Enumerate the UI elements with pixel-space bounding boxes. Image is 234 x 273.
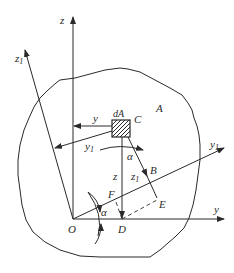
label-point-e: E <box>158 198 166 210</box>
label-da: dA <box>113 108 125 119</box>
d-to-e-dashed <box>122 200 157 219</box>
angle-arc-origin-bottom <box>95 224 101 244</box>
label-z-axis: z <box>59 14 65 26</box>
d-to-f-dashed <box>116 202 122 219</box>
label-y-arrow: y <box>92 112 98 124</box>
z1-axis <box>25 50 73 219</box>
label-y1-arrow: y1 <box>84 140 94 154</box>
label-z-arrow: z <box>112 170 118 182</box>
label-point-f: F <box>107 188 115 200</box>
label-alpha-center: α <box>127 150 133 162</box>
label-y1-axis: y1 <box>209 138 219 152</box>
label-region-a: A <box>155 102 163 114</box>
label-point-c: C <box>134 113 142 125</box>
y1-distance-arrow <box>55 131 112 148</box>
label-z1-arrow: z1 <box>130 170 139 184</box>
label-point-b: B <box>150 164 157 176</box>
c-to-e-line <box>147 176 157 198</box>
cross-section-rotated-axes-diagram: z z1 y y1 A dA C y y1 α z z1 B E F α O D <box>0 0 234 273</box>
label-point-d: D <box>117 223 126 235</box>
label-point-o: O <box>68 223 76 235</box>
label-z1-axis: z1 <box>14 52 23 66</box>
y1-axis <box>73 148 224 219</box>
region-a-boundary <box>18 68 200 257</box>
label-alpha-origin: α <box>101 206 107 218</box>
label-y-axis: y <box>213 203 219 215</box>
angle-arc-origin <box>88 192 100 236</box>
